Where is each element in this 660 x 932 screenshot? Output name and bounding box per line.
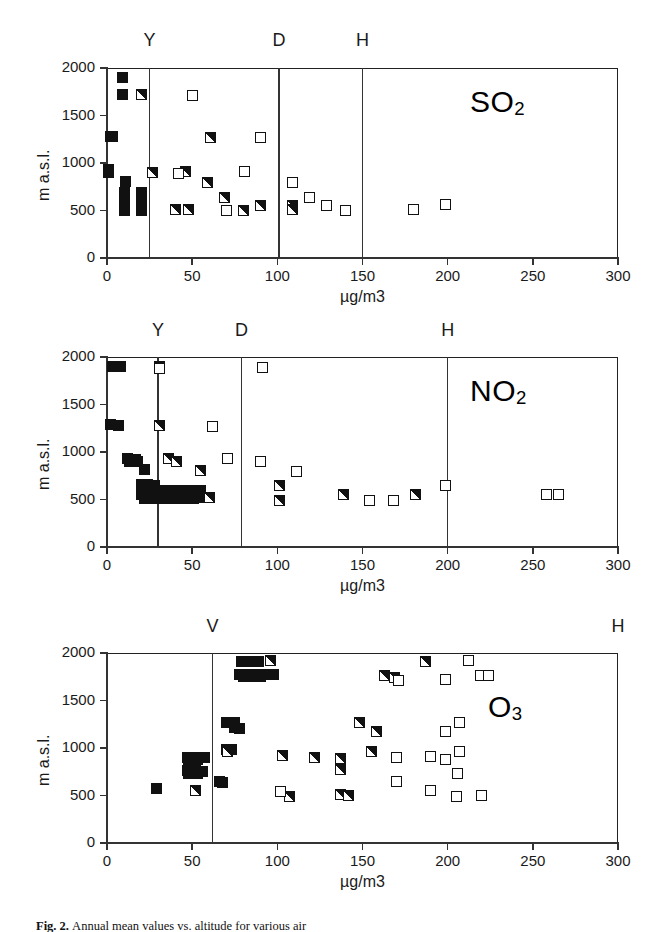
data-point-half bbox=[163, 453, 174, 464]
species-label-text: O bbox=[488, 690, 512, 723]
chart-panel-so2: 0500100015002000050100150200250300µg/m3m… bbox=[0, 0, 660, 932]
x-tick-label: 0 bbox=[82, 267, 132, 284]
data-point-open bbox=[388, 495, 399, 506]
data-point-filled bbox=[132, 456, 143, 467]
data-point-filled bbox=[144, 485, 155, 496]
x-tick bbox=[447, 547, 448, 554]
data-point-filled bbox=[183, 489, 194, 500]
data-point-half bbox=[335, 764, 346, 775]
x-tick-label: 150 bbox=[338, 852, 388, 869]
y-tick bbox=[100, 404, 107, 405]
data-point-open bbox=[287, 177, 298, 188]
y-tick bbox=[100, 210, 107, 211]
x-tick bbox=[617, 843, 618, 850]
guideline-label-y: Y bbox=[138, 320, 178, 341]
caption-text: Annual mean values vs. altitude for vari… bbox=[72, 919, 306, 932]
data-point-filled bbox=[187, 485, 198, 496]
data-point-open bbox=[451, 791, 462, 802]
x-tick bbox=[106, 258, 107, 265]
data-point-half bbox=[343, 790, 354, 801]
data-point-filled bbox=[229, 717, 240, 728]
guideline-d bbox=[241, 357, 242, 547]
x-tick bbox=[617, 258, 618, 265]
y-tick bbox=[100, 451, 107, 452]
x-tick bbox=[447, 258, 448, 265]
data-point-filled bbox=[246, 671, 257, 682]
data-point-open bbox=[187, 90, 198, 101]
data-point-filled bbox=[195, 489, 206, 500]
data-point-filled bbox=[139, 464, 150, 475]
guideline-label-h: H bbox=[343, 30, 383, 51]
y-tick-label: 2000 bbox=[41, 347, 95, 364]
y-axis-title: m a.s.l. bbox=[35, 149, 53, 201]
x-axis-title: µg/m3 bbox=[303, 288, 423, 306]
y-tick-label: 1000 bbox=[41, 738, 95, 755]
species-label-text: NO bbox=[470, 374, 516, 407]
data-point-filled bbox=[221, 717, 232, 728]
x-tick-label: 250 bbox=[508, 267, 558, 284]
data-point-filled bbox=[124, 456, 135, 467]
data-point-half bbox=[147, 167, 158, 178]
data-point-filled bbox=[226, 744, 237, 755]
data-point-filled bbox=[192, 754, 203, 765]
data-point-half bbox=[183, 204, 194, 215]
y-axis-line bbox=[106, 67, 108, 259]
data-point-filled bbox=[183, 754, 194, 765]
y-tick-label: 1500 bbox=[41, 691, 95, 708]
data-point-open bbox=[291, 466, 302, 477]
data-point-half bbox=[219, 192, 230, 203]
data-point-filled bbox=[217, 777, 228, 788]
data-point-half bbox=[366, 746, 377, 757]
data-point-filled bbox=[136, 196, 147, 207]
y-tick-label: 500 bbox=[41, 490, 95, 507]
guideline-y bbox=[149, 68, 150, 258]
guideline-h bbox=[362, 68, 363, 258]
x-tick-label: 150 bbox=[338, 556, 388, 573]
plot-frame bbox=[107, 68, 618, 258]
data-point-filled bbox=[137, 485, 148, 496]
data-point-filled bbox=[117, 72, 128, 83]
guideline-label-y: Y bbox=[130, 30, 170, 51]
data-point-filled bbox=[175, 493, 186, 504]
x-tick bbox=[362, 547, 363, 554]
data-point-filled bbox=[159, 493, 170, 504]
data-point-filled bbox=[142, 479, 153, 490]
x-tick-label: 250 bbox=[508, 852, 558, 869]
species-label-subscript: 2 bbox=[514, 98, 525, 119]
x-tick bbox=[362, 843, 363, 850]
data-point-open bbox=[257, 362, 268, 373]
data-point-half bbox=[274, 495, 285, 506]
data-point-filled bbox=[119, 201, 130, 212]
data-point-filled bbox=[119, 187, 130, 198]
y-tick-label: 2000 bbox=[41, 58, 95, 75]
data-point-open bbox=[275, 786, 286, 797]
data-point-filled bbox=[153, 493, 164, 504]
data-point-filled bbox=[176, 489, 187, 500]
data-point-filled bbox=[149, 480, 160, 491]
data-point-filled bbox=[182, 752, 193, 763]
data-point-filled bbox=[130, 454, 141, 465]
y-tick-label: 500 bbox=[41, 786, 95, 803]
data-point-filled bbox=[197, 766, 208, 777]
data-point-filled bbox=[253, 656, 264, 667]
data-point-filled bbox=[199, 492, 210, 503]
data-point-half bbox=[171, 456, 182, 467]
data-point-half bbox=[190, 785, 201, 796]
x-tick-label: 200 bbox=[423, 556, 473, 573]
data-point-half bbox=[154, 361, 165, 372]
y-tick-label: 1500 bbox=[41, 395, 95, 412]
y-axis-line bbox=[106, 356, 108, 548]
guideline-label-d: D bbox=[222, 320, 262, 341]
data-point-open bbox=[255, 132, 266, 143]
data-point-half bbox=[335, 789, 346, 800]
data-point-filled bbox=[107, 361, 118, 372]
data-point-open bbox=[440, 480, 451, 491]
data-point-open bbox=[440, 674, 451, 685]
data-point-half bbox=[354, 717, 365, 728]
x-tick bbox=[362, 258, 363, 265]
data-point-filled bbox=[136, 201, 147, 212]
data-point-open bbox=[364, 495, 375, 506]
y-tick bbox=[100, 652, 107, 653]
x-tick-label: 300 bbox=[593, 556, 643, 573]
data-point-filled bbox=[149, 489, 160, 500]
